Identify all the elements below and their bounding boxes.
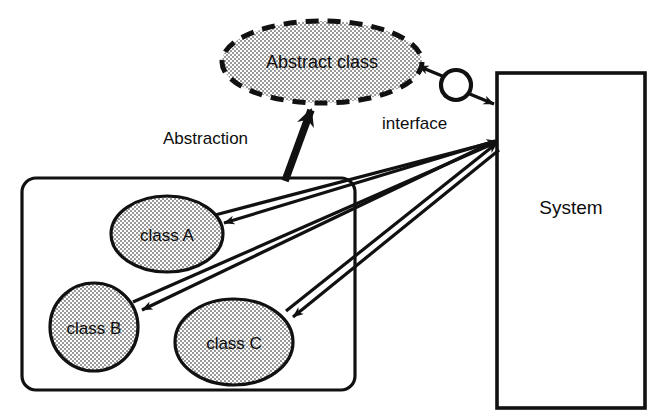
class-c-label: class C [206, 334, 262, 353]
interface-lollipop-icon [441, 70, 471, 100]
connector-abstraction-arrow [285, 110, 311, 181]
system-box [497, 73, 645, 408]
class-b-label: class B [67, 319, 122, 338]
connector-system-to-class-c [293, 150, 499, 317]
abstract-class-label: Abstract class [266, 52, 378, 72]
interface-label: interface [382, 114, 447, 133]
system-label: System [539, 197, 602, 218]
diagram-canvas: Abstract class class A class B class C S… [0, 0, 654, 420]
class-a-label: class A [140, 226, 195, 245]
abstraction-label: Abstraction [163, 129, 248, 148]
uml-abstraction-diagram: Abstract class class A class B class C S… [0, 0, 654, 420]
